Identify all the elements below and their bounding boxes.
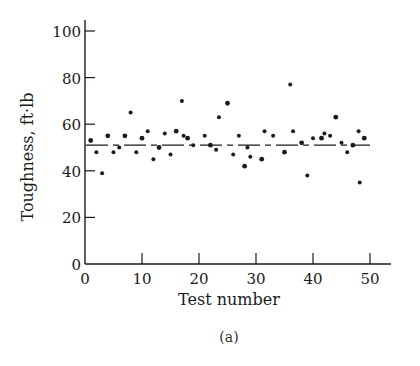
data-point	[259, 157, 264, 162]
data-point	[231, 152, 235, 156]
data-point	[305, 173, 309, 177]
data-point	[174, 129, 179, 134]
data-point	[328, 134, 332, 138]
y-tick-label: 80	[62, 70, 81, 88]
data-point	[185, 136, 190, 141]
data-point	[208, 143, 213, 148]
data-point	[214, 148, 218, 152]
y-tick-label: 100	[52, 23, 81, 41]
y-tick-label: 40	[62, 163, 81, 181]
data-point	[345, 150, 349, 154]
data-point	[333, 115, 338, 120]
x-tick-label: 0	[80, 270, 90, 288]
data-point	[340, 141, 344, 145]
data-point	[357, 129, 361, 133]
data-point	[88, 138, 93, 143]
data-point	[151, 157, 155, 161]
data-point	[163, 132, 167, 136]
data-point	[291, 129, 295, 133]
data-point	[169, 152, 173, 156]
data-point	[245, 146, 249, 150]
data-point	[217, 115, 221, 119]
data-point	[140, 136, 145, 141]
data-point	[112, 150, 116, 154]
x-tick-label: 40	[303, 270, 322, 288]
data-point	[362, 136, 367, 141]
y-axis-label: Toughness, ft·lb	[18, 92, 37, 221]
data-point	[358, 180, 362, 184]
data-point	[322, 132, 326, 136]
scatter-chart: Toughness, ft·lb 02040608010001020304050…	[0, 0, 420, 366]
data-point	[134, 150, 138, 154]
data-point	[248, 155, 252, 159]
x-tick-label: 10	[132, 270, 151, 288]
data-point	[319, 136, 324, 141]
data-point	[299, 140, 304, 145]
y-tick-label: 20	[62, 209, 81, 227]
data-point	[117, 146, 121, 150]
data-point	[203, 134, 207, 138]
x-tick-label: 50	[360, 270, 379, 288]
y-axis-title: Toughness, ft·lb	[18, 92, 37, 221]
axes	[85, 20, 391, 264]
data-point	[191, 143, 195, 147]
data-point	[182, 134, 186, 138]
data-point	[271, 134, 275, 138]
data-point	[225, 101, 230, 106]
data-point	[180, 99, 184, 103]
y-tick-label: 60	[62, 116, 81, 134]
figure-caption: (a)	[219, 329, 238, 345]
data-point	[242, 164, 247, 169]
data-point	[146, 129, 150, 133]
x-tick-label: 20	[189, 270, 208, 288]
data-point	[351, 143, 356, 148]
data-point	[282, 150, 287, 155]
data-point	[94, 150, 98, 154]
data-point	[105, 133, 110, 138]
data-point	[263, 129, 267, 133]
data-point	[123, 133, 128, 138]
data-point	[100, 171, 104, 175]
data-point	[237, 134, 241, 138]
x-axis-title: Test number	[178, 290, 280, 309]
x-tick-label: 30	[246, 270, 265, 288]
data-point	[288, 83, 292, 87]
data-point	[311, 136, 315, 140]
axis-ticks: 02040608010001020304050	[52, 23, 379, 288]
data-point	[129, 111, 133, 115]
data-point	[157, 145, 162, 150]
data-points	[88, 83, 366, 185]
